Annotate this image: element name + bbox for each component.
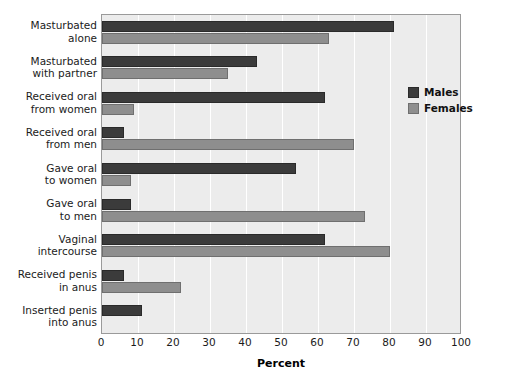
bar-group <box>102 15 460 51</box>
y-axis-label: Gave oral to men <box>1 197 97 222</box>
bar-males <box>102 234 325 245</box>
y-axis-label: Inserted penis into anus <box>1 304 97 329</box>
x-axis-tick-label: 90 <box>418 336 431 348</box>
legend-label-females: Females <box>424 102 473 114</box>
bar-females <box>102 175 131 186</box>
bar-males <box>102 305 142 316</box>
bar-females <box>102 33 329 44</box>
bar-group <box>102 86 460 122</box>
bar-group <box>102 193 460 229</box>
bar-males <box>102 127 124 138</box>
bar-group <box>102 51 460 87</box>
x-axis-title: Percent <box>101 357 461 370</box>
x-axis-tick-label: 10 <box>130 336 143 348</box>
y-axis-label: Received penis in anus <box>1 268 97 293</box>
legend: Males Females <box>408 86 473 118</box>
x-axis-tick-label: 20 <box>166 336 179 348</box>
bar-group <box>102 264 460 300</box>
y-axis-label: Vaginal intercourse <box>1 233 97 258</box>
bar-females <box>102 104 134 115</box>
legend-item-females: Females <box>408 102 473 114</box>
y-axis-label: Masturbated alone <box>1 19 97 44</box>
bar-females <box>102 68 228 79</box>
x-axis-tick-label: 80 <box>382 336 395 348</box>
y-axis-label: Received oral from women <box>1 90 97 115</box>
bar-females <box>102 246 390 257</box>
y-axis-label: Gave oral to women <box>1 162 97 187</box>
bar-males <box>102 270 124 281</box>
bar-females <box>102 139 354 150</box>
bar-males <box>102 92 325 103</box>
bar-males <box>102 163 296 174</box>
y-axis-label: Received oral from men <box>1 126 97 151</box>
x-axis-ticks: 0102030405060708090100 <box>101 336 461 352</box>
x-axis-tick-label: 30 <box>202 336 215 348</box>
bar-females <box>102 282 181 293</box>
bar-males <box>102 199 131 210</box>
plot-area <box>101 14 461 334</box>
x-axis-tick-label: 70 <box>346 336 359 348</box>
x-axis-tick-label: 60 <box>310 336 323 348</box>
y-axis-labels: Masturbated aloneMasturbated with partne… <box>0 14 97 334</box>
x-axis-tick-label: 40 <box>238 336 251 348</box>
legend-swatch-females <box>408 103 419 114</box>
x-axis-tick-label: 100 <box>451 336 471 348</box>
bar-group <box>102 122 460 158</box>
bar-group <box>102 299 460 335</box>
bar-group <box>102 157 460 193</box>
horizontal-bar-chart: Masturbated aloneMasturbated with partne… <box>0 0 516 390</box>
legend-label-males: Males <box>424 86 459 98</box>
bar-group <box>102 228 460 264</box>
bar-females <box>102 211 365 222</box>
legend-item-males: Males <box>408 86 473 98</box>
x-axis-tick-label: 50 <box>274 336 287 348</box>
bar-males <box>102 56 257 67</box>
bar-males <box>102 21 394 32</box>
y-axis-label: Masturbated with partner <box>1 55 97 80</box>
x-axis-tick-label: 0 <box>98 336 105 348</box>
legend-swatch-males <box>408 87 419 98</box>
